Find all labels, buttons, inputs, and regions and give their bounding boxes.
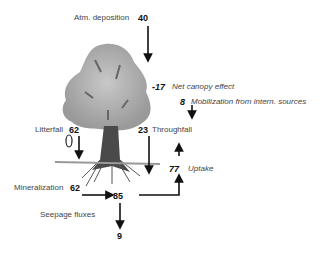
tree-crown <box>63 44 151 131</box>
seepage-label: Seepage fluxes <box>40 210 95 220</box>
canopy-effect-value: -17 <box>152 82 165 92</box>
throughfall-value: 23 <box>138 125 148 135</box>
seepage-value: 9 <box>117 231 122 241</box>
ground-line <box>55 162 160 164</box>
mineralization-label: Mineralization <box>14 183 63 193</box>
mineralization-value: 62 <box>70 183 80 193</box>
canopy-effect-label: Net canopy effect <box>172 82 234 92</box>
litterfall-value: 62 <box>69 125 79 135</box>
mobilization-label: Mobilization from intern. sources <box>191 97 306 107</box>
uptake-lower-arrow <box>139 178 179 195</box>
soil-pool-value: 85 <box>113 191 123 201</box>
throughfall-label: Throughfall <box>152 125 192 135</box>
uptake-value: 77 <box>169 164 179 174</box>
atm-deposition-value: 40 <box>138 13 148 23</box>
litterfall-label: Litterfall <box>35 125 63 135</box>
uptake-label: Uptake <box>188 164 213 174</box>
mobilization-value: 8 <box>180 97 185 107</box>
leaf-icon <box>66 135 72 147</box>
atm-deposition-label: Atm. deposition <box>74 13 129 23</box>
